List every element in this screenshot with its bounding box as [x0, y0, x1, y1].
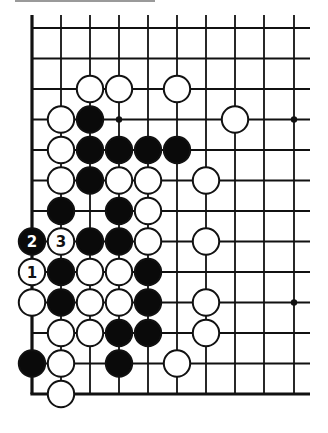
move-number-label: 2 [27, 233, 37, 251]
black-stone [77, 167, 103, 193]
white-stone [135, 198, 161, 224]
white-stone [135, 228, 161, 254]
white-stone [19, 289, 45, 315]
black-stone [106, 320, 132, 346]
black-stone [106, 137, 132, 163]
move-number-label: 3 [56, 233, 66, 251]
black-stone [77, 106, 103, 132]
hoshi-point [116, 116, 122, 122]
black-stone [106, 228, 132, 254]
white-stone [193, 167, 219, 193]
black-stone [164, 137, 190, 163]
white-stone [135, 167, 161, 193]
white-stone [48, 106, 74, 132]
white-stone [77, 76, 103, 102]
white-stone [48, 381, 74, 407]
white-stone: 3 [48, 228, 74, 254]
black-stone [48, 198, 74, 224]
black-stone [135, 320, 161, 346]
white-stone [77, 259, 103, 285]
black-stone [48, 259, 74, 285]
black-stone [135, 289, 161, 315]
hoshi-point [291, 299, 297, 305]
black-stone [77, 137, 103, 163]
black-stone [106, 350, 132, 376]
white-stone [164, 76, 190, 102]
white-stone [77, 320, 103, 346]
move-number-label: 1 [27, 264, 37, 282]
white-stone: 1 [19, 259, 45, 285]
black-stone [135, 259, 161, 285]
white-stone [222, 106, 248, 132]
black-stone [77, 228, 103, 254]
white-stone [193, 289, 219, 315]
white-stone [48, 137, 74, 163]
white-stone [48, 167, 74, 193]
go-board: 231 [0, 0, 328, 433]
white-stone [193, 320, 219, 346]
black-stone [19, 350, 45, 376]
black-stone [106, 198, 132, 224]
black-stone: 2 [19, 228, 45, 254]
black-stone [48, 289, 74, 315]
white-stone [48, 320, 74, 346]
white-stone [164, 350, 190, 376]
hoshi-point [291, 116, 297, 122]
white-stone [106, 76, 132, 102]
white-stone [106, 167, 132, 193]
white-stone [193, 228, 219, 254]
white-stone [106, 259, 132, 285]
white-stone [106, 289, 132, 315]
white-stone [48, 350, 74, 376]
black-stone [135, 137, 161, 163]
white-stone [77, 289, 103, 315]
